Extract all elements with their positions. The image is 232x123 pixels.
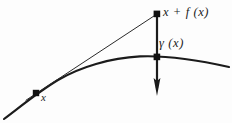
math-figure: x + f (x) γ (x) x bbox=[0, 0, 232, 123]
vector-label: γ (x) bbox=[159, 37, 184, 50]
endpoint-marker bbox=[154, 11, 161, 18]
base-point-label: x bbox=[41, 92, 46, 103]
curve-point-marker bbox=[154, 54, 161, 61]
endpoint-label: x + f (x) bbox=[163, 6, 209, 19]
base-point-marker bbox=[33, 90, 39, 96]
